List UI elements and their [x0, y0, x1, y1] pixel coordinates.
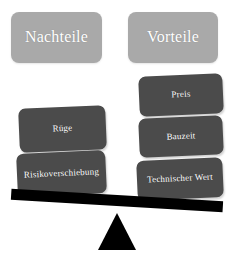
header-card-vorteile: Vorteile: [128, 12, 218, 63]
item-card-risikoverschiebung-label: Risikoverschiebung: [24, 167, 99, 180]
header-card-nachteile-label: Nachteile: [25, 29, 88, 46]
item-card-bauzeit-label: Bauzeit: [166, 131, 195, 142]
item-card-bauzeit: Bauzeit: [138, 115, 224, 158]
item-card-preis-label: Preis: [171, 90, 190, 100]
item-card-technischer-wert-label: Technischer Wert: [147, 173, 213, 185]
header-card-vorteile-label: Vorteile: [147, 29, 199, 46]
diagram-canvas: Nachteile Vorteile Rüge Risikoverschiebu…: [0, 0, 233, 258]
item-card-ruege: Rüge: [18, 105, 107, 153]
header-card-nachteile: Nachteile: [11, 12, 102, 63]
item-card-preis: Preis: [138, 73, 224, 117]
seesaw-fulcrum-triangle-icon: [98, 213, 136, 250]
item-card-technischer-wert: Technischer Wert: [136, 157, 224, 201]
item-card-ruege-label: Rüge: [52, 124, 72, 134]
